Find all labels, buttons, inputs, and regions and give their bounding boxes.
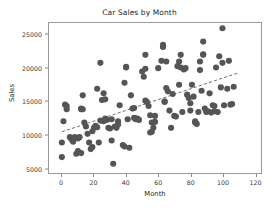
data-point	[190, 94, 196, 100]
x-tick-label: 100	[217, 179, 229, 186]
x-tick-label: 20	[89, 179, 97, 186]
data-point	[109, 116, 115, 122]
data-point	[96, 139, 102, 145]
data-point	[199, 88, 205, 94]
data-point	[80, 92, 86, 98]
data-point	[221, 102, 227, 108]
data-point	[224, 86, 230, 92]
data-point	[78, 150, 84, 156]
scatter-plot-svg	[49, 23, 261, 173]
plot-area	[48, 22, 262, 174]
data-point	[152, 119, 158, 125]
data-point	[195, 109, 201, 115]
data-point	[150, 125, 156, 131]
data-point	[200, 39, 206, 45]
data-point	[197, 58, 203, 64]
data-point	[60, 118, 66, 124]
data-point	[179, 109, 185, 115]
data-point	[142, 52, 148, 58]
data-point	[109, 137, 115, 143]
data-point	[173, 114, 179, 120]
data-point	[102, 96, 108, 102]
data-point	[152, 113, 158, 119]
data-point	[219, 25, 225, 31]
data-point	[211, 103, 217, 109]
data-point	[218, 84, 224, 90]
data-point	[89, 144, 95, 150]
data-point	[187, 108, 193, 114]
data-point	[128, 92, 134, 98]
data-point	[115, 118, 121, 124]
x-tick-mark	[256, 174, 257, 177]
y-tick-label: 15000	[22, 98, 42, 105]
data-point	[215, 109, 221, 115]
data-point	[182, 65, 188, 71]
data-point	[126, 145, 132, 151]
data-point	[200, 51, 206, 57]
data-point	[94, 86, 100, 92]
x-tick-label: 60	[154, 179, 162, 186]
data-point	[59, 139, 65, 145]
x-tick-mark	[191, 174, 192, 177]
data-point	[216, 53, 222, 59]
x-tick-label: 120	[249, 179, 261, 186]
data-point	[125, 116, 131, 122]
data-point	[219, 60, 225, 66]
data-point	[226, 58, 232, 64]
data-point	[168, 125, 174, 131]
data-point	[194, 121, 200, 127]
data-point	[176, 82, 182, 88]
data-point	[76, 134, 82, 140]
data-point	[59, 154, 65, 160]
y-axis-tick-labels: 500010000150002000025000	[0, 22, 42, 174]
data-point	[197, 67, 203, 73]
x-tick-mark	[158, 174, 159, 177]
data-point	[64, 106, 70, 112]
data-point	[166, 108, 172, 114]
x-tick-mark	[61, 174, 62, 177]
chart-figure: Car Sales by Month Sales 500010000150002…	[0, 0, 279, 211]
x-tick-mark	[126, 174, 127, 177]
data-point	[178, 52, 184, 58]
x-tick-label: 80	[187, 179, 195, 186]
y-tick-label: 5000	[26, 165, 42, 172]
data-point	[213, 64, 219, 70]
data-points	[59, 25, 237, 167]
data-point	[123, 64, 129, 70]
x-axis-label: Month	[48, 190, 262, 198]
data-point	[162, 98, 168, 104]
y-tick-label: 20000	[22, 64, 42, 71]
data-point	[117, 102, 123, 108]
x-axis-ticks: 020406080100120	[48, 174, 262, 190]
data-point	[121, 80, 127, 86]
data-point	[136, 117, 142, 123]
x-tick-mark	[93, 174, 94, 177]
data-point	[207, 90, 213, 96]
x-tick-label: 0	[59, 179, 63, 186]
x-tick-label: 40	[122, 179, 130, 186]
data-point	[229, 101, 235, 107]
data-point	[189, 82, 195, 88]
data-point	[83, 123, 89, 129]
y-tick-label: 10000	[22, 131, 42, 138]
x-tick-mark	[223, 174, 224, 177]
data-point	[101, 90, 107, 96]
data-point	[231, 84, 237, 90]
data-point	[170, 91, 176, 97]
data-point	[187, 100, 193, 106]
data-point	[141, 74, 147, 80]
data-point	[110, 161, 116, 167]
data-point	[146, 103, 152, 109]
data-point	[131, 105, 137, 111]
chart-title: Car Sales by Month	[0, 8, 279, 17]
data-point	[176, 58, 182, 64]
data-point	[163, 58, 169, 64]
data-point	[80, 106, 86, 112]
data-point	[97, 60, 103, 66]
data-point	[142, 66, 148, 72]
data-point	[155, 65, 161, 71]
y-tick-label: 25000	[22, 31, 42, 38]
data-point	[160, 44, 166, 50]
data-point	[94, 124, 100, 130]
